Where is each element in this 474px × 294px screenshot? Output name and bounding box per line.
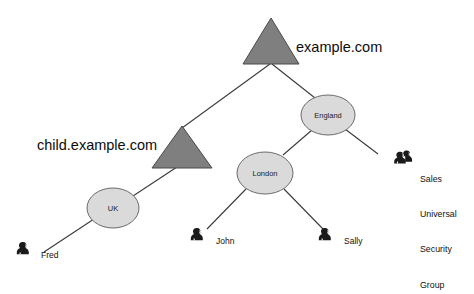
group-label-line: Security bbox=[420, 244, 457, 256]
root-domain-label: example.com bbox=[296, 39, 382, 56]
container-london-label: London bbox=[252, 169, 277, 178]
user-icon bbox=[17, 242, 29, 254]
user-icon bbox=[319, 228, 331, 240]
group-label-line: Sales bbox=[420, 174, 457, 186]
group-label-line: Universal bbox=[420, 209, 457, 221]
child-domain-label: child.example.com bbox=[37, 137, 157, 154]
group-icon bbox=[394, 151, 412, 164]
edge-london-to-john bbox=[207, 189, 246, 229]
edge-england-to-london bbox=[283, 130, 312, 155]
edge-uk-to-fred bbox=[44, 219, 94, 252]
container-england-label: England bbox=[314, 111, 342, 120]
group-label-sales: Sales Universal Security Group bbox=[420, 150, 457, 294]
group-label-line: Group bbox=[420, 280, 457, 292]
edge-root-to-child bbox=[182, 64, 270, 128]
edge-group bbox=[44, 64, 378, 252]
child-domain-triangle[interactable] bbox=[152, 126, 212, 168]
root-domain-triangle[interactable] bbox=[243, 18, 299, 64]
container-uk-label: UK bbox=[108, 204, 118, 213]
user-label-sally: Sally bbox=[344, 236, 362, 246]
user-label-fred: Fred bbox=[41, 250, 58, 260]
edge-child-to-uk bbox=[133, 165, 180, 196]
edge-england-to-sales-group bbox=[345, 129, 378, 154]
user-icon bbox=[191, 228, 203, 240]
edge-root-to-england bbox=[272, 64, 315, 98]
edge-london-to-sally bbox=[284, 189, 323, 229]
user-label-john: John bbox=[216, 236, 234, 246]
